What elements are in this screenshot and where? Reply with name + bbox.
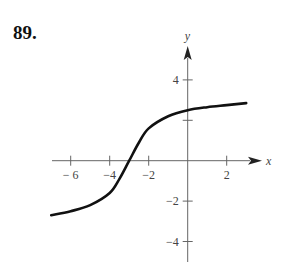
x-tick-label: −4: [103, 168, 116, 182]
x-tick-label: −2: [142, 168, 155, 182]
x-tick-label: 2: [224, 168, 230, 182]
x-tick-label: − 6: [63, 168, 79, 182]
y-axis-label: y: [184, 29, 191, 43]
y-tick-label: −4: [166, 235, 179, 249]
y-tick-label: −2: [166, 194, 179, 208]
chart: xy− 6−4−224−2−4: [0, 0, 283, 274]
y-axis-arrow-icon: [184, 46, 192, 60]
y-tick-label: 4: [173, 73, 179, 87]
x-axis-arrow-icon: [248, 157, 262, 165]
x-axis-label: x: [265, 154, 272, 168]
